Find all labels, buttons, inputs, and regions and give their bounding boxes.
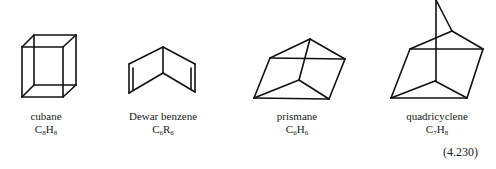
equation-number: (4.230) — [443, 145, 478, 160]
bond-line — [436, 0, 452, 31]
bond-line — [391, 81, 435, 98]
formula-element: H — [297, 123, 305, 135]
formula-subscript: 6 — [170, 129, 174, 137]
formula-subscript: 6 — [305, 129, 309, 137]
molecule-formula-prismane: C6H6 — [262, 123, 332, 140]
molecule-name-dewar-benzene: Dewar benzene — [118, 110, 208, 123]
molecule-formula-cubane: C8H8 — [18, 123, 74, 140]
molecule-name-quadricyclene: quadricyclene — [392, 110, 482, 123]
bond-line — [452, 31, 483, 49]
bond-line — [410, 31, 452, 49]
formula-element: C — [152, 123, 159, 135]
molecule-name-cubane: cubane — [18, 110, 74, 123]
formula-subscript: 8 — [54, 129, 58, 137]
bond-line — [467, 49, 483, 98]
bond-line — [391, 49, 410, 98]
molecule-name-prismane: prismane — [262, 110, 332, 123]
formula-element: H — [437, 123, 445, 135]
molecule-formula-dewar-benzene: C6R6 — [118, 123, 208, 140]
bond-line — [435, 81, 467, 98]
formula-element: H — [46, 123, 54, 135]
formula-subscript: 8 — [445, 129, 449, 137]
molecule-formula-quadricyclene: C7H8 — [392, 123, 482, 140]
quadricyclene-structure — [0, 0, 496, 169]
